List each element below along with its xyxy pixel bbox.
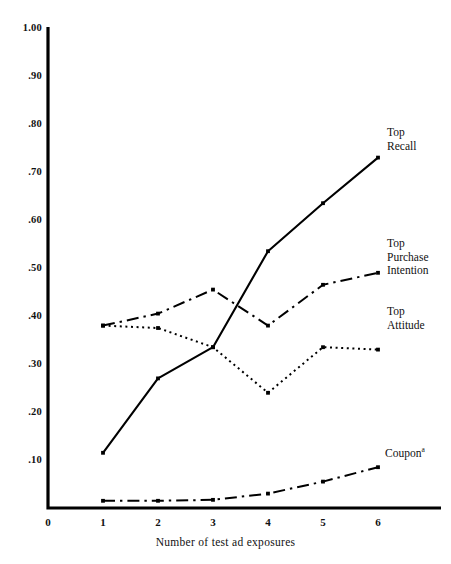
- data-point-marker: [211, 288, 215, 292]
- series-label-coupon: Coupona: [385, 443, 425, 460]
- series-label-line: Recall: [387, 140, 416, 154]
- data-point-marker: [156, 499, 160, 503]
- data-point-marker: [266, 249, 270, 253]
- data-point-marker: [156, 326, 160, 330]
- series-label-line: Attitude: [387, 319, 425, 333]
- data-point-marker: [266, 492, 270, 496]
- y-tick-label: .40: [6, 310, 42, 321]
- series-line: [103, 158, 378, 453]
- data-point-marker: [321, 283, 325, 287]
- data-point-marker: [376, 271, 380, 275]
- data-point-marker: [376, 156, 380, 160]
- x-axis-title: Number of test ad exposures: [0, 536, 451, 548]
- x-tick-label: 2: [143, 516, 173, 528]
- data-point-marker: [211, 498, 215, 502]
- chart-axes: [48, 27, 441, 508]
- x-tick-label: 1: [88, 516, 118, 528]
- x-tick-label: 0: [33, 516, 63, 528]
- series-label-line: Intention: [387, 264, 429, 278]
- series-line: [103, 326, 378, 393]
- series-top-recall: [101, 156, 380, 455]
- series-label-top-purchase-intention: Top Purchase Intention: [387, 237, 429, 278]
- data-point-marker: [101, 499, 105, 503]
- series-top-attitude: [101, 324, 380, 395]
- coupon-label-text: Coupon: [385, 447, 421, 459]
- data-point-marker: [156, 377, 160, 381]
- y-tick-label: .50: [6, 262, 42, 273]
- series-label-line: Top: [387, 305, 425, 319]
- y-tick-label: .60: [6, 214, 42, 225]
- y-tick-label: .80: [6, 118, 42, 129]
- data-point-marker: [321, 480, 325, 484]
- y-tick-label: 1.00: [6, 22, 42, 33]
- series-line: [103, 467, 378, 501]
- data-point-marker: [376, 465, 380, 469]
- x-tick-label: 6: [363, 516, 393, 528]
- x-tick-label: 5: [308, 516, 338, 528]
- data-point-marker: [101, 451, 105, 455]
- data-point-marker: [376, 348, 380, 352]
- y-tick-label: .70: [6, 166, 42, 177]
- y-tick-label: .20: [6, 406, 42, 417]
- data-point-marker: [321, 345, 325, 349]
- coupon-footnote-marker: a: [421, 445, 424, 454]
- series-label-top-recall: Top Recall: [387, 126, 416, 153]
- series-label-line: Coupona: [385, 443, 425, 460]
- x-tick-label: 3: [198, 516, 228, 528]
- series-label-line: Top: [387, 237, 429, 251]
- series-coupon: [101, 465, 380, 502]
- chart-plot-area: [0, 0, 451, 564]
- data-point-marker: [266, 324, 270, 328]
- y-tick-label: .30: [6, 358, 42, 369]
- series-label-line: Purchase: [387, 251, 429, 265]
- y-tick-label: .90: [6, 70, 42, 81]
- series-label-line: Top: [387, 126, 416, 140]
- data-point-marker: [211, 345, 215, 349]
- data-point-marker: [101, 324, 105, 328]
- series-label-top-attitude: Top Attitude: [387, 305, 425, 332]
- chart-figure: 1.00 .90 .80 .70 .60 .50 .40 .30 .20 .10…: [0, 0, 451, 564]
- data-point-marker: [156, 312, 160, 316]
- data-point-marker: [266, 391, 270, 395]
- x-tick-label: 4: [253, 516, 283, 528]
- data-point-marker: [321, 201, 325, 205]
- y-tick-label: .10: [6, 454, 42, 465]
